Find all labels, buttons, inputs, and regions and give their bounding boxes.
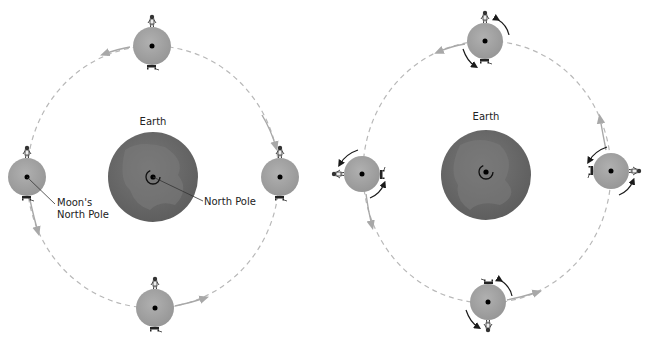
astronaut-icon [332, 170, 344, 178]
moon-right [261, 146, 299, 201]
orbit-direction-arrow [104, 47, 130, 54]
orbit-direction-arrow [175, 298, 205, 306]
lunar-rover-icon [275, 196, 287, 201]
lunar-rover-icon [480, 59, 492, 64]
north-pole-label: North Pole [204, 196, 256, 207]
astronaut-icon [629, 167, 641, 175]
orbit-direction-arrow [30, 200, 38, 232]
earth-label: Earth [473, 111, 500, 122]
astronaut-icon [484, 320, 492, 332]
lunar-rover-icon [588, 166, 593, 178]
lunar-rover-icon [22, 196, 34, 201]
moon-north-pole-label-line2: North Pole [57, 209, 109, 220]
moon-bottom [466, 279, 512, 332]
moon-top [133, 15, 171, 70]
moon-left [332, 150, 385, 198]
orbit-direction-arrow [366, 194, 372, 226]
orbit-direction-arrow [600, 118, 606, 150]
earth [441, 130, 531, 220]
earth-label: Earth [140, 116, 167, 127]
lunar-rover-icon [150, 327, 162, 332]
orbit-direction-arrow [438, 44, 465, 52]
astronaut-icon [481, 11, 489, 23]
moon-north-pole-label: Moon's [57, 197, 92, 208]
lunar-rover-icon [380, 167, 385, 179]
right-panel: Earth [332, 11, 641, 332]
earth-north-pole-dot [483, 169, 488, 174]
moon-right [588, 147, 641, 195]
lunar-rover-icon [147, 65, 159, 70]
moon-bottom [136, 277, 174, 332]
moon-rotation-diagram: Earth North Pole Moon's North Pole [0, 0, 652, 340]
astronaut-icon [148, 15, 156, 27]
astronaut-icon [151, 277, 159, 289]
moon-top [463, 11, 509, 66]
left-panel: Earth North Pole Moon's North Pole [8, 15, 299, 332]
orbit-direction-arrow [262, 115, 276, 147]
moon-left [8, 146, 46, 201]
lunar-rover-icon [481, 279, 493, 284]
